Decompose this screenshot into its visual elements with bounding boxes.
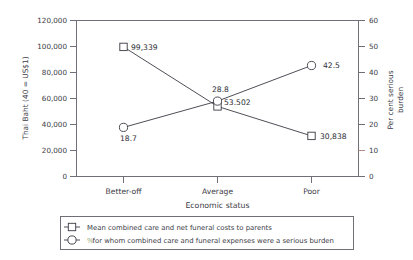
legend-item-costs[interactable]: Mean combined care and net funeral costs… [64, 223, 272, 231]
x-axis-ticks [124, 177, 312, 184]
datalabel-burden-better-off: 18.7 [120, 134, 137, 143]
left-tick-label: 100,000 [37, 42, 67, 51]
series-costs-marker [308, 132, 315, 139]
datalabel-costs-poor: 30,838 [320, 132, 347, 141]
left-axis-tick-labels: 120,000 100,000 80,000 60,000 40,000 20,… [37, 16, 67, 181]
x-axis-title: Economic status [185, 201, 249, 210]
left-tick-label: 80,000 [42, 68, 68, 77]
left-tick-label: 20,000 [42, 146, 68, 155]
category-label-better-off: Better-off [106, 187, 143, 196]
category-label-average: Average [202, 187, 234, 196]
series-burden-marker [119, 123, 127, 131]
series-costs-marker [120, 43, 127, 50]
right-axis-title: Per cent serious burden [386, 70, 405, 129]
right-tick-label: 50 [369, 42, 379, 51]
right-tick-label: 40 [369, 68, 379, 77]
x-axis-category-labels: Better-off Average Poor [106, 187, 321, 196]
right-tick-label: 20 [369, 120, 379, 129]
legend-label-burden: for whom combined care and funeral expen… [93, 237, 334, 245]
legend-item-burden[interactable]: % for whom combined care and funeral exp… [64, 236, 334, 245]
right-tick-label: 0 [369, 172, 374, 181]
series-burden-marker [213, 97, 221, 105]
chart-legend: Mean combined care and net funeral costs… [61, 217, 354, 250]
right-axis-title-line2: burden [396, 87, 405, 114]
left-axis-title: Thai Baht (40 = US$1) [21, 56, 30, 140]
right-axis-title-line1: Per cent serious [386, 70, 395, 129]
datalabel-costs-average: 53.502 [224, 98, 251, 107]
legend-marker-circle-icon [68, 236, 76, 244]
series-burden-line [124, 66, 312, 128]
left-axis-ticks [70, 21, 77, 177]
datalabel-burden-average: 28.8 [212, 85, 229, 94]
legend-marker-square-icon [68, 223, 75, 230]
right-tick-label: 10 [369, 146, 379, 155]
right-tick-label: 30 [369, 94, 379, 103]
datalabel-burden-poor: 42.5 [323, 61, 340, 70]
chart-figure: 120,000 100,000 80,000 60,000 40,000 20,… [0, 0, 413, 260]
right-axis-tick-labels: 60 50 40 30 20 10 0 [369, 16, 379, 181]
right-tick-label: 60 [369, 16, 379, 25]
series-burden-marker [307, 61, 315, 69]
category-label-poor: Poor [303, 187, 321, 196]
left-tick-label: 0 [62, 172, 67, 181]
left-tick-label: 60,000 [42, 94, 68, 103]
series-costs-datalabels: 99,339 53.502 30,838 [131, 43, 347, 142]
series-burden [119, 61, 315, 131]
left-tick-label: 120,000 [37, 16, 67, 25]
legend-label-costs: Mean combined care and net funeral costs… [87, 224, 272, 232]
datalabel-costs-better-off: 99,339 [131, 43, 158, 52]
chart-svg: 120,000 100,000 80,000 60,000 40,000 20,… [0, 0, 413, 260]
left-tick-label: 40,000 [42, 120, 68, 129]
right-axis-ticks [359, 21, 366, 177]
